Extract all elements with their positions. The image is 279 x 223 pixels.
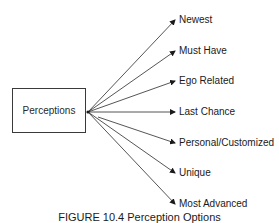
target-personal-customized: Personal/Customized <box>179 137 274 149</box>
target-most-advanced: Most Advanced <box>179 198 247 210</box>
arrow-origin-node <box>86 110 89 113</box>
target-last-chance: Last Chance <box>179 106 235 118</box>
figure-caption: FIGURE 10.4 Perception Options <box>0 211 279 223</box>
target-newest: Newest <box>179 14 212 26</box>
arrow-to-personal-customized <box>98 117 175 143</box>
arrow-to-unique <box>88 112 175 173</box>
target-ego-related: Ego Related <box>179 75 234 87</box>
arrow-to-most-advanced <box>88 112 175 204</box>
target-must-have: Must Have <box>179 45 227 57</box>
target-unique: Unique <box>179 167 211 179</box>
perceptions-label: Perceptions <box>23 105 76 116</box>
arrow-to-must-have <box>88 51 175 112</box>
arrow-to-newest <box>88 20 175 112</box>
arrow-to-ego-related <box>88 81 175 112</box>
perceptions-box: Perceptions <box>12 88 86 133</box>
perceptions-diagram: Perceptions Newest Must Have Ego Related… <box>0 0 279 223</box>
